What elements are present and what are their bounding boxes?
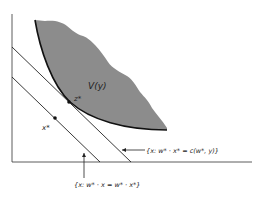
point-x-star bbox=[53, 116, 57, 120]
point-x-label: x* bbox=[41, 124, 50, 132]
point-z-star bbox=[67, 100, 71, 104]
input-requirement-region bbox=[35, 20, 167, 130]
lower-line-label: {x: w* · x = w* · x*} bbox=[74, 181, 140, 189]
point-z-label: z* bbox=[73, 95, 82, 103]
diagram-canvas: V(y) z* x* {x: w* · x* = c(w*, y)} {x: w… bbox=[0, 0, 268, 201]
upper-line-label: {x: w* · x* = c(w*, y)} bbox=[146, 147, 219, 155]
upper-arrowhead bbox=[122, 148, 126, 152]
lower-arrowhead bbox=[82, 153, 86, 157]
region-label: V(y) bbox=[88, 81, 107, 91]
